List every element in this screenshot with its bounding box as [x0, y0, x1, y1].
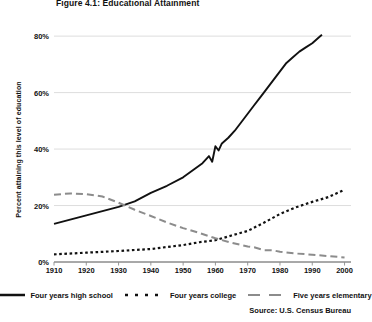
x-axis-tick-label: 1990 — [304, 266, 321, 275]
page-title: Figure 4.1: Educational Attainment — [56, 0, 199, 8]
legend-item-label: Four years high school — [30, 291, 113, 300]
chart-legend: Four years high schoolFour years college… — [0, 288, 363, 302]
x-axis-tick-label: 1960 — [207, 266, 224, 275]
x-axis-tick-label: 1970 — [239, 266, 256, 275]
x-axis-tick-label: 2000 — [336, 266, 353, 275]
plot-area — [54, 22, 351, 262]
series-line-four-years-high-school — [54, 35, 322, 224]
x-axis-tick-label: 1910 — [46, 266, 63, 275]
data-series-layer — [54, 35, 345, 258]
series-line-four-years-college — [54, 190, 345, 255]
x-axis-tick-marks — [54, 262, 345, 266]
legend-item[interactable]: Four years college — [125, 291, 236, 300]
x-axis-tick-labels: 1910192019301940195019601970198019902000 — [54, 266, 351, 280]
solid-line-swatch — [0, 291, 25, 299]
legend-item[interactable]: Five years elementary — [248, 291, 371, 300]
x-axis-tick-label: 1950 — [175, 266, 192, 275]
x-axis-tick-label: 1930 — [110, 266, 127, 275]
series-line-five-years-elementary — [54, 193, 345, 257]
dashed-line-swatch — [248, 291, 288, 299]
source-note: Source: U.S. Census Bureau — [249, 306, 351, 315]
y-axis-tick-label: 80% — [34, 32, 49, 41]
y-axis-tick-label: 60% — [34, 88, 49, 97]
legend-item-label: Four years college — [170, 291, 236, 300]
x-axis-tick-label: 1940 — [143, 266, 160, 275]
gridlines — [54, 36, 351, 262]
x-axis-tick-label: 1980 — [272, 266, 289, 275]
x-axis-tick-label: 1920 — [78, 266, 95, 275]
legend-item-label: Five years elementary — [293, 291, 371, 300]
dotted-line-swatch — [125, 291, 165, 299]
legend-item[interactable]: Four years high school — [0, 291, 113, 300]
y-axis-tick-label: 20% — [34, 201, 49, 210]
y-axis-tick-labels: 0%20%40%60%80% — [0, 22, 49, 262]
y-axis-tick-label: 40% — [34, 145, 49, 154]
line-chart-svg — [54, 22, 351, 262]
